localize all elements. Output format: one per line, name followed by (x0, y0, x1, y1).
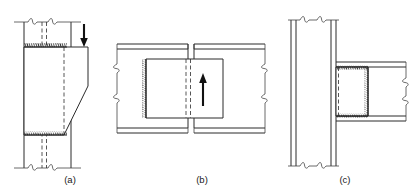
panel-b-caption: (b) (196, 174, 208, 185)
panel-a-load-arrow-down (80, 24, 88, 47)
panel-c-end-plate (336, 67, 368, 116)
connection-details-drawing: (a) (0, 0, 419, 192)
panel-a-caption: (a) (64, 174, 76, 185)
panel-b-break-right (261, 44, 267, 133)
figure-container: (a) (0, 0, 419, 192)
panel-b-weld-left (142, 59, 146, 118)
panel-b-top-flange-left (117, 44, 188, 49)
panel-b-splice-plate (146, 59, 223, 118)
panel-b: (b) (113, 44, 267, 185)
panel-c: (c) (288, 16, 408, 185)
panel-c-weld-bottom (336, 114, 368, 118)
panel-b-top-flange-right (194, 44, 265, 49)
panel-a-weld-top (24, 43, 67, 47)
panel-a: (a) (14, 18, 88, 185)
panel-c-weld-right (365, 67, 369, 116)
panel-c-caption: (c) (339, 174, 350, 185)
panel-b-bottom-flange-right (194, 128, 265, 133)
panel-c-weld-top (336, 66, 368, 70)
panel-a-bracket-plate (24, 47, 88, 135)
panel-c-break-beam (402, 62, 408, 121)
panel-b-break-left (113, 44, 119, 133)
panel-b-bottom-flange-left (117, 128, 188, 133)
panel-c-column (291, 20, 336, 166)
panel-a-weld-bottom (24, 131, 67, 135)
